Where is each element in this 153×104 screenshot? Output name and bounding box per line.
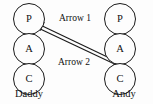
ego-state-label: A	[14, 34, 44, 64]
person-column-andy: P A C	[104, 3, 140, 95]
person-name-andy: Andy	[96, 88, 152, 99]
person-column-daddy: P A C	[13, 3, 49, 95]
ego-state-label: A	[105, 34, 135, 64]
person-name-daddy: Daddy	[1, 88, 57, 99]
ego-state-daddy-adult[interactable]: A	[13, 33, 45, 65]
ego-state-daddy-parent[interactable]: P	[13, 3, 45, 35]
ego-state-label: P	[105, 4, 135, 34]
ego-state-andy-parent[interactable]: P	[104, 3, 136, 35]
ego-state-label: P	[14, 4, 44, 34]
diagram-canvas: P A C P A C Daddy Andy Arrow 1 Arrow 2	[0, 0, 153, 104]
arrow-2-label: Arrow 2	[57, 57, 91, 67]
arrow-1-label: Arrow 1	[58, 13, 92, 23]
ego-state-andy-adult[interactable]: A	[104, 33, 136, 65]
